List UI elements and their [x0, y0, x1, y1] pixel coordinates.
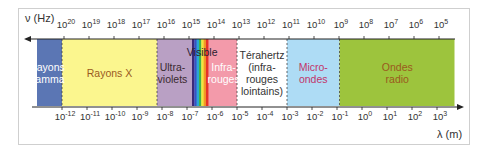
wavelength-tick-label: 102 — [408, 110, 423, 122]
wavelength-tick-label: 10-1 — [332, 110, 349, 122]
wavelength-tick-label: 10-11 — [80, 110, 100, 122]
wavelength-axis-title: λ (m) — [437, 128, 462, 140]
band-label-ir: Infra- — [211, 61, 236, 73]
frequency-tick-label: 1010 — [307, 18, 325, 30]
band-label-thz: (infra- — [248, 61, 276, 73]
wavelength-axis-arrow-icon — [457, 104, 464, 110]
band-label-thz: Térahertz — [240, 49, 285, 61]
frequency-tick-label: 105 — [434, 18, 449, 30]
frequency-tick-label: 1015 — [182, 18, 200, 30]
wavelength-tick-label: 10-6 — [207, 110, 224, 122]
wavelength-tick-label: 103 — [433, 110, 448, 122]
band-label-gamma: Rayons — [29, 61, 65, 73]
frequency-tick-label: 1011 — [282, 18, 300, 30]
band-label-micro: ondes — [299, 73, 328, 85]
band-label-radio: Ondes — [382, 61, 413, 73]
wavelength-tick-label: 10-2 — [307, 110, 324, 122]
band-label-gamma: gamma — [29, 73, 64, 85]
frequency-axis-arrow-icon — [24, 36, 31, 42]
frequency-tick-label: 1013 — [232, 18, 250, 30]
band-label-thz: lointains) — [241, 85, 283, 97]
frequency-axis-title: ν (Hz) — [25, 12, 54, 24]
wavelength-tick-label: 100 — [358, 110, 373, 122]
wavelength-tick-label: 10-8 — [157, 110, 174, 122]
band-label-radio: radio — [386, 73, 410, 85]
frequency-tick-label: 1012 — [257, 18, 275, 30]
frequency-tick-label: 107 — [384, 18, 399, 30]
band-label-xray: Rayons X — [87, 67, 133, 79]
frequency-tick-label: 109 — [334, 18, 349, 30]
wavelength-tick-label: 10-7 — [182, 110, 199, 122]
wavelength-tick-label: 10-10 — [105, 110, 126, 122]
visible-label: Visible — [187, 46, 218, 58]
spectrum-diagram: 1020101910181017101610151014101310121011… — [0, 0, 484, 156]
band-label-micro: Micro- — [299, 61, 329, 73]
frequency-tick-label: 1019 — [82, 18, 100, 30]
wavelength-tick-label: 10-4 — [257, 110, 274, 122]
band-label-uv: Ultra- — [160, 61, 186, 73]
wavelength-tick-label: 10-9 — [132, 110, 149, 122]
band-label-uv: violets — [158, 73, 188, 85]
wavelength-tick-label: 10-3 — [282, 110, 299, 122]
wavelength-tick-label: 10-5 — [232, 110, 249, 122]
frequency-tick-label: 1020 — [57, 18, 75, 30]
frequency-tick-label: 108 — [359, 18, 374, 30]
wavelength-tick-label: 101 — [383, 110, 398, 122]
wavelength-tick-label: 10-12 — [55, 110, 76, 122]
frequency-tick-label: 1018 — [107, 18, 125, 30]
frequency-tick-label: 1016 — [157, 18, 175, 30]
frequency-tick-label: 106 — [409, 18, 424, 30]
frequency-tick-label: 1014 — [207, 18, 225, 30]
frequency-tick-label: 1017 — [132, 18, 150, 30]
band-label-ir: rouges — [208, 73, 240, 85]
band-label-thz: rouges — [246, 73, 278, 85]
